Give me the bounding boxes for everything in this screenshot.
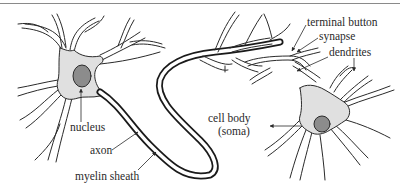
neuron-diagram: nucleus axon myelin sheath terminal butt… xyxy=(0,0,400,195)
right-neuron xyxy=(245,48,394,180)
myelin-pointer xyxy=(138,152,156,170)
label-terminal-button: terminal button xyxy=(307,16,378,28)
axon-pointer xyxy=(112,132,138,150)
label-nucleus: nucleus xyxy=(70,121,106,133)
label-synapse: synapse xyxy=(319,30,355,43)
axon xyxy=(100,42,280,176)
synapse-pointer xyxy=(297,38,318,52)
label-cell-body: cell body xyxy=(208,112,251,125)
label-soma: (soma) xyxy=(218,125,250,138)
label-axon: axon xyxy=(90,144,113,156)
label-dendrites: dendrites xyxy=(329,46,372,58)
left-nucleus xyxy=(73,65,91,87)
right-nucleus xyxy=(314,116,330,132)
neuron-illustration: nucleus axon myelin sheath terminal butt… xyxy=(0,0,400,195)
label-myelin-sheath: myelin sheath xyxy=(75,170,139,183)
